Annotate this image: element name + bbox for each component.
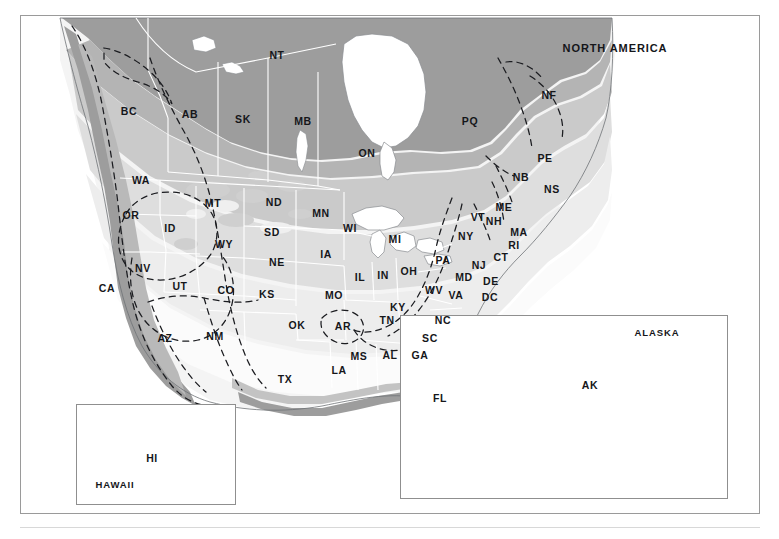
state-label-or: OR — [123, 210, 140, 221]
province-label-sk: SK — [235, 114, 251, 125]
alaska-inset-frame — [400, 315, 728, 499]
state-label-de: DE — [483, 276, 499, 287]
province-label-nb: NB — [513, 172, 529, 183]
state-label-dc: DC — [482, 292, 498, 303]
state-label-ar: AR — [335, 321, 351, 332]
state-label-nj: NJ — [472, 260, 487, 271]
state-label-nm: NM — [206, 331, 224, 342]
state-label-ok: OK — [289, 320, 306, 331]
hawaii-state-label: HI — [146, 453, 158, 464]
province-label-pq: PQ — [462, 116, 478, 127]
state-label-sc: SC — [422, 333, 438, 344]
state-label-mn: MN — [312, 208, 330, 219]
state-label-mt: MT — [205, 198, 221, 209]
state-label-id: ID — [164, 223, 176, 234]
state-label-ga: GA — [412, 350, 429, 361]
state-label-md: MD — [455, 272, 473, 283]
alaska-inset-title: ALASKA — [635, 328, 680, 338]
state-label-sd: SD — [264, 227, 280, 238]
state-label-mi: MI — [389, 234, 402, 245]
province-label-nf: NF — [541, 90, 556, 101]
state-label-ca: CA — [99, 283, 115, 294]
province-label-ab: AB — [182, 109, 198, 120]
province-label-mb: MB — [294, 116, 312, 127]
state-label-tn: TN — [379, 315, 394, 326]
province-label-pe: PE — [537, 153, 552, 164]
state-label-tx: TX — [278, 374, 293, 385]
state-label-me: ME — [496, 202, 513, 213]
state-label-mo: MO — [325, 290, 343, 301]
state-label-nv: NV — [135, 263, 151, 274]
state-label-ny: NY — [458, 231, 474, 242]
state-label-nh: NH — [486, 216, 502, 227]
state-label-pa: PA — [435, 255, 450, 266]
state-label-fl: FL — [433, 393, 447, 404]
state-label-nc: NC — [435, 315, 451, 326]
state-label-ct: CT — [493, 252, 508, 263]
state-label-wa: WA — [132, 175, 150, 186]
alaska-state-label: AK — [582, 380, 598, 391]
state-label-va: VA — [448, 290, 463, 301]
map-title: NORTH AMERICA — [563, 43, 668, 54]
state-label-ma: MA — [510, 227, 528, 238]
state-label-in: IN — [377, 270, 389, 281]
state-label-oh: OH — [401, 266, 418, 277]
state-label-il: IL — [355, 272, 366, 283]
state-label-az: AZ — [157, 333, 172, 344]
state-label-ms: MS — [351, 351, 368, 362]
state-label-ks: KS — [259, 289, 275, 300]
province-label-ns: NS — [544, 184, 560, 195]
state-label-al: AL — [382, 350, 397, 361]
state-label-ri: RI — [508, 240, 520, 251]
province-label-bc: BC — [121, 106, 137, 117]
state-label-la: LA — [331, 365, 346, 376]
state-label-co: CO — [218, 285, 235, 296]
state-label-vt: VT — [471, 212, 486, 223]
state-label-ia: IA — [320, 249, 332, 260]
state-label-ky: KY — [390, 302, 406, 313]
map-figure: NTBCABSKMBONPQNFPENBNSWAORIDMTWYNVUTCAAZ… — [0, 0, 779, 539]
state-label-ne: NE — [269, 257, 285, 268]
state-label-wv: WV — [425, 285, 443, 296]
hawaii-inset-title: HAWAII — [95, 480, 134, 490]
state-label-wi: WI — [343, 223, 357, 234]
province-label-nt: NT — [269, 50, 284, 61]
state-label-ut: UT — [172, 281, 187, 292]
state-label-wy: WY — [215, 239, 233, 250]
province-label-on: ON — [359, 148, 376, 159]
state-label-nd: ND — [266, 197, 282, 208]
